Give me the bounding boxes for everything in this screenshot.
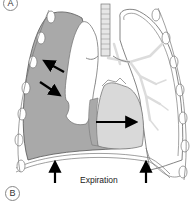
expiration-caption: Expiration [80,175,118,185]
panel-label-b: B [5,186,20,201]
chest-diagram: A B Expiration [0,0,192,203]
heart [89,78,144,149]
